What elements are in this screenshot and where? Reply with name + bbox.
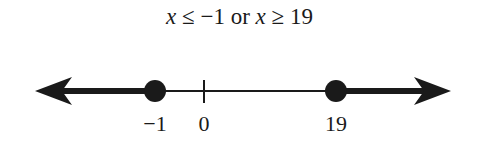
number-line: −1 0 19 (0, 0, 479, 142)
closed-dot-neg1 (144, 80, 166, 102)
label-neg1: −1 (143, 111, 166, 136)
closed-dot-19 (325, 80, 347, 102)
label-zero: 0 (199, 111, 210, 136)
label-19: 19 (325, 111, 347, 136)
